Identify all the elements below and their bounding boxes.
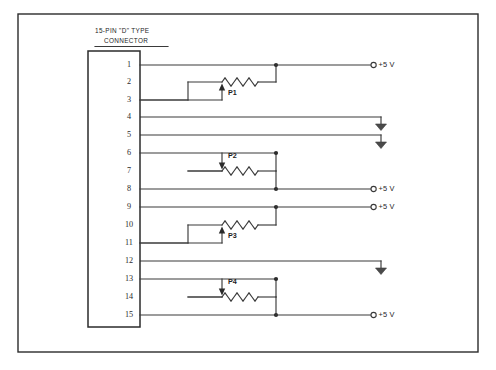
- potentiometer-label-P4: P4: [228, 277, 237, 286]
- pin-number-1: 1: [127, 60, 131, 69]
- pin-number-4: 4: [127, 112, 131, 121]
- pin-number-8: 8: [127, 184, 131, 193]
- potentiometer-label-P1: P1: [228, 88, 237, 97]
- connector-title-line1: 15-PIN "D" TYPE: [95, 27, 149, 34]
- circuit-svg-canvas: 123456789101112131415 P1P2P3P4 +5 V+5 V+…: [0, 0, 496, 370]
- supply-label-pin-1: +5 V: [379, 60, 395, 69]
- supply-terminal-circle-pin-9: [371, 204, 376, 209]
- schematic-diagram: 123456789101112131415 P1P2P3P4 +5 V+5 V+…: [0, 0, 496, 370]
- pin-number-6: 6: [127, 148, 131, 157]
- supply-terminal-circle-pin-15: [371, 312, 376, 317]
- pin-number-11: 11: [125, 238, 133, 247]
- pin-number-14: 14: [125, 292, 133, 301]
- pin-number-5: 5: [127, 130, 131, 139]
- supply-terminal-circle-pin-8: [371, 186, 376, 191]
- pin-number-13: 13: [125, 274, 133, 283]
- potentiometer-label-P2: P2: [228, 151, 237, 160]
- supply-terminal-circle-pin-1: [371, 62, 376, 67]
- P4-network-junction-dot: [274, 277, 278, 281]
- pin-number-2: 2: [127, 77, 131, 86]
- supply-label-pin-9: +5 V: [379, 202, 395, 211]
- pin-number-9: 9: [127, 202, 131, 211]
- pin-number-15: 15: [125, 310, 133, 319]
- connector-body: [88, 51, 140, 327]
- pin-number-3: 3: [127, 95, 131, 104]
- pin-number-10: 10: [125, 220, 133, 229]
- pin-number-12: 12: [125, 256, 133, 265]
- supply-label-pin-15: +5 V: [379, 310, 395, 319]
- supply-label-pin-8: +5 V: [379, 184, 395, 193]
- P2-network-junction-dot: [274, 151, 278, 155]
- potentiometer-label-P3: P3: [228, 231, 237, 240]
- pin-number-7: 7: [127, 166, 131, 175]
- connector-title-line2: CONNECTOR: [104, 37, 148, 44]
